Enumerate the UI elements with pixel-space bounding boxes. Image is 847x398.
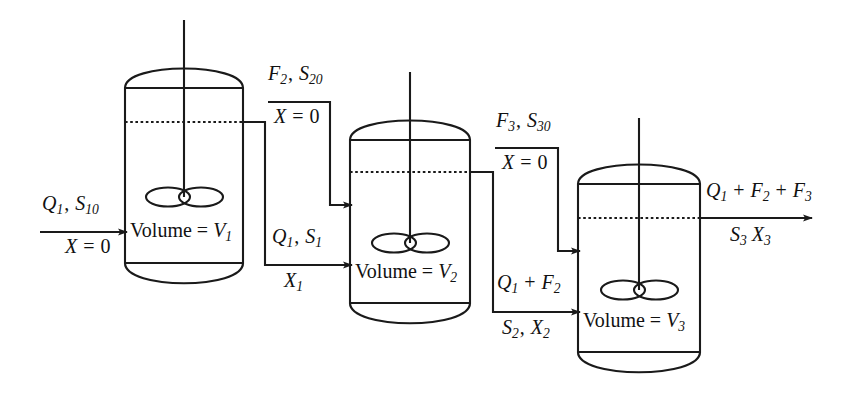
diagram-canvas: Q1, S10 X = 0 Volume = V1 F2, S20 X = 0 … (0, 0, 847, 398)
tank-1-volume-label: Volume = V1 (130, 220, 232, 244)
transfer-1-to-2-above-label: Q1, S1 (272, 226, 322, 250)
feed-2-below-label: X = 0 (274, 106, 320, 127)
transfer-1-to-2-below-label: X1 (284, 270, 303, 294)
feed-3-above-label: F3, S30 (496, 110, 551, 134)
tank-2-volume-label: Volume = V2 (355, 261, 457, 285)
feed-3-below-label: X = 0 (502, 152, 548, 173)
transfer-2-to-3-below-label: S2, X2 (502, 317, 550, 341)
feed-1-above-label: Q1, S10 (42, 193, 99, 217)
feed-1-below-label: X = 0 (65, 236, 111, 257)
tank-3-volume-label: Volume = V3 (583, 310, 685, 334)
effluent-3-below-label: S3 X3 (730, 224, 771, 248)
transfer-2-to-3-above-label: Q1 + F2 (497, 272, 561, 296)
effluent-3-above-label: Q1 + F2 + F3 (706, 180, 812, 204)
feed-2-above-label: F2, S20 (268, 63, 323, 87)
